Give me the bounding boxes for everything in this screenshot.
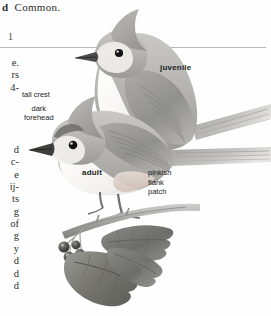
berry: [72, 241, 81, 250]
adult-eye: [69, 141, 78, 150]
label-dark-forehead: dark forehead: [24, 104, 54, 122]
adult-tail: [168, 147, 271, 166]
juvenile-eye: [115, 49, 123, 57]
label-adult: adult: [82, 168, 102, 177]
berry: [58, 241, 69, 252]
label-pinkish-flank-patch: pinkish flank patch: [148, 168, 171, 197]
field-guide-page: d Common. 1 e. rs 4- d c- e ij- ts g of …: [0, 0, 271, 316]
holly-branch: [58, 204, 200, 307]
label-tall-crest: tall crest: [22, 90, 50, 99]
bird-illustration-plate: [0, 0, 271, 316]
label-juvenile: juvenile: [160, 63, 191, 72]
